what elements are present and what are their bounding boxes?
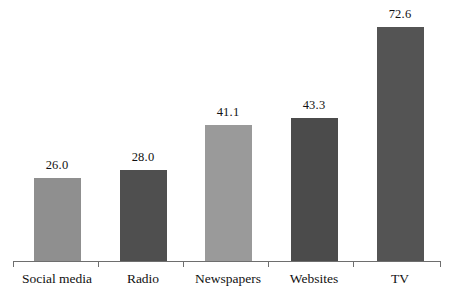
x-axis-tick-0	[13, 261, 14, 267]
x-axis-tick-5	[440, 261, 441, 267]
bar-chart: 26.0 28.0 41.1 43.3 72.6 Social media Ra…	[0, 0, 455, 295]
bar-radio	[120, 170, 167, 261]
bar-value-websites: 43.3	[274, 99, 354, 112]
plot-area: 26.0 28.0 41.1 43.3 72.6	[0, 0, 455, 262]
bar-newspapers	[205, 125, 252, 261]
x-axis-tick-2	[183, 261, 184, 267]
bar-websites	[291, 118, 338, 261]
x-axis-line	[13, 261, 440, 262]
x-axis-tick-3	[268, 261, 269, 267]
bar-value-tv: 72.6	[360, 8, 440, 21]
bar-value-radio: 28.0	[103, 151, 183, 164]
bar-tv	[377, 27, 424, 261]
x-axis-tick-4	[353, 261, 354, 267]
bar-social-media	[34, 178, 81, 261]
x-axis-tick-1	[98, 261, 99, 267]
x-axis-label-tv: TV	[340, 269, 455, 289]
bar-value-newspapers: 41.1	[188, 106, 268, 119]
x-axis-category-labels: Social media Radio Newspapers Websites T…	[0, 269, 455, 295]
bar-value-social-media: 26.0	[17, 159, 97, 172]
